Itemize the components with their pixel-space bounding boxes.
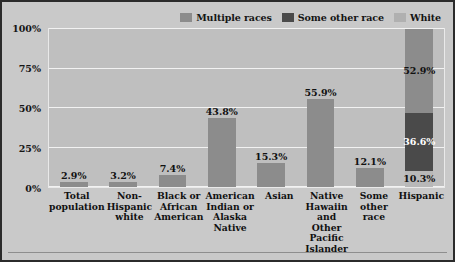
legend-swatch-icon	[394, 13, 406, 22]
bottom-divider	[8, 252, 447, 253]
chart-figure: Multiple races Some other race White 100…	[0, 0, 455, 262]
bar[interactable]: 43.8%	[208, 118, 236, 187]
bar-segment[interactable]: 15.3%	[257, 163, 285, 187]
bar-value-label: 52.9%	[403, 65, 435, 76]
bar[interactable]: 3.2%	[109, 182, 137, 187]
bar-segment[interactable]: 52.9%	[405, 29, 433, 113]
bar-segment[interactable]: 36.6%	[405, 113, 433, 171]
bar-slot[interactable]: 52.9%36.6%10.3%	[395, 29, 444, 187]
x-axis-label: Some other race	[350, 191, 397, 254]
bar-segment[interactable]: 43.8%	[208, 118, 236, 187]
bar-value-label: 3.2%	[110, 170, 136, 181]
y-axis-tick: 75%	[19, 63, 41, 74]
bar-segment[interactable]: 10.3%	[405, 171, 433, 187]
bar-slot[interactable]: 3.2%	[98, 29, 147, 187]
bar-segment[interactable]: 3.2%	[109, 182, 137, 187]
bar[interactable]: 7.4%	[159, 175, 187, 187]
legend-swatch-icon	[282, 13, 294, 22]
bar-value-label: 55.9%	[304, 87, 336, 98]
bar[interactable]: 15.3%	[257, 163, 285, 187]
x-axis-label: Native Hawaiin and Other Pacific Islande…	[303, 191, 350, 254]
bar-value-label: 36.6%	[403, 136, 435, 147]
bar[interactable]: 55.9%	[307, 99, 335, 187]
bar-segment[interactable]: 2.9%	[60, 182, 88, 187]
bar-slot[interactable]: 12.1%	[345, 29, 394, 187]
chart-legend: Multiple races Some other race White	[180, 10, 441, 24]
bar-slot[interactable]: 7.4%	[148, 29, 197, 187]
bar-segment[interactable]: 7.4%	[159, 175, 187, 187]
x-axis-label: Non-Hispanic white	[106, 191, 153, 254]
bar-value-label: 15.3%	[255, 151, 287, 162]
y-axis-tick-labels: 100%75%50%25%0%	[2, 28, 46, 188]
bar-series: 2.9%3.2%7.4%43.8%15.3%55.9%12.1%52.9%36.…	[49, 29, 444, 187]
legend-entry-some-other-race: Some other race	[282, 12, 384, 23]
bar-value-label: 7.4%	[160, 163, 186, 174]
x-axis-label: Hispanic	[398, 191, 446, 254]
x-axis-label: Total population	[48, 191, 106, 254]
bar-slot[interactable]: 43.8%	[197, 29, 246, 187]
legend-label: White	[410, 12, 441, 23]
bar-segment[interactable]: 55.9%	[307, 99, 335, 187]
x-axis-category-labels: Total populationNon-Hispanic whiteBlack …	[48, 191, 445, 254]
y-axis-tick: 50%	[19, 103, 41, 114]
bar[interactable]: 2.9%	[60, 182, 88, 187]
bar-slot[interactable]: 15.3%	[247, 29, 296, 187]
bar[interactable]: 12.1%	[356, 168, 384, 187]
y-axis-tick: 0%	[25, 183, 41, 194]
legend-entry-white: White	[394, 12, 441, 23]
bar-value-label: 2.9%	[61, 170, 87, 181]
y-axis-tick: 100%	[12, 23, 41, 34]
bar-slot[interactable]: 55.9%	[296, 29, 345, 187]
y-axis-tick: 25%	[19, 143, 41, 154]
legend-label: Some other race	[298, 12, 384, 23]
plot-area: 2.9%3.2%7.4%43.8%15.3%55.9%12.1%52.9%36.…	[48, 28, 445, 188]
bar-value-label: 43.8%	[206, 106, 238, 117]
x-axis-label: American Indian or Alaska Native	[204, 191, 255, 254]
x-axis-label: Asian	[256, 191, 303, 254]
bar-value-label: 10.3%	[403, 173, 435, 184]
bar[interactable]: 52.9%36.6%10.3%	[405, 29, 433, 187]
bar-slot[interactable]: 2.9%	[49, 29, 98, 187]
bar-value-label: 12.1%	[354, 156, 386, 167]
x-axis-label: Black or African American	[153, 191, 204, 254]
bar-segment[interactable]: 12.1%	[356, 168, 384, 187]
legend-entry-multiple-races: Multiple races	[180, 12, 272, 23]
legend-swatch-icon	[180, 13, 192, 22]
legend-label: Multiple races	[196, 12, 272, 23]
